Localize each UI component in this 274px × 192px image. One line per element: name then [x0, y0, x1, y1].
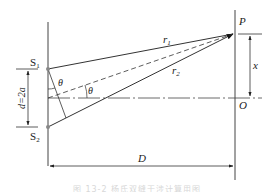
ray-r1: [48, 34, 233, 69]
label-s2: S2: [30, 130, 40, 144]
label-D: D: [137, 152, 146, 164]
slit-s1-point: [46, 67, 50, 71]
angle-arc-axis: [85, 85, 87, 98]
label-x: x: [252, 59, 258, 71]
ray-r2: [48, 34, 233, 127]
label-r2: r2: [172, 64, 180, 78]
perpendicular-line: [48, 69, 66, 118]
label-p: P: [238, 15, 246, 27]
slit-s2-point: [46, 125, 50, 129]
label-theta-axis: θ: [88, 85, 93, 96]
label-s1: S1: [30, 56, 40, 70]
angle-arc-slit: [48, 88, 55, 89]
label-theta-slit: θ: [58, 77, 63, 88]
double-slit-diagram: S1 S2 P O r1 r2 θ θ d=2a x D: [0, 0, 274, 192]
label-d: d=2a: [16, 87, 27, 109]
figure-caption: 图 13-2 杨氏双缝干涉计算用图: [0, 183, 274, 192]
ray-center: [48, 34, 233, 98]
label-r1: r1: [163, 33, 171, 47]
label-o: O: [239, 99, 247, 111]
